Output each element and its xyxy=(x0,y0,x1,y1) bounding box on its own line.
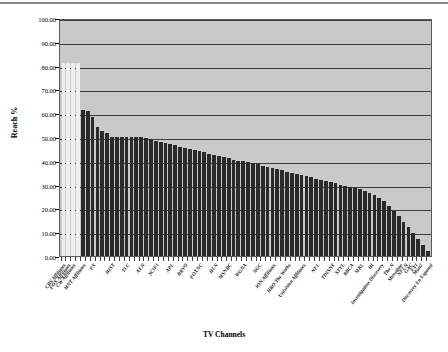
x-axis-tick-mark xyxy=(363,257,367,261)
bar xyxy=(251,163,255,256)
bar xyxy=(426,251,430,256)
top-divider-rule xyxy=(0,2,448,4)
bar xyxy=(353,188,357,256)
bar xyxy=(382,201,386,256)
x-axis-tick-mark xyxy=(348,257,352,261)
bar xyxy=(71,63,75,256)
bar xyxy=(339,185,343,256)
x-axis-tick-mark xyxy=(392,257,396,261)
bar xyxy=(256,164,260,256)
bar xyxy=(193,150,197,256)
x-axis-tick-mark xyxy=(182,257,186,261)
x-axis-category-label: AEN xyxy=(134,262,145,274)
x-axis-tick-mark xyxy=(226,257,230,261)
x-axis-tick-mark xyxy=(260,257,264,261)
reach-by-tv-channel-chart: Reach % 100.0090.0080.0070.0060.0050.004… xyxy=(0,0,448,352)
bar xyxy=(120,137,124,256)
x-axis-tick-mark xyxy=(377,257,381,261)
bar xyxy=(66,63,70,256)
bar xyxy=(319,180,323,256)
x-axis-category-label: TLC xyxy=(120,262,131,273)
x-axis-tick-mark xyxy=(109,257,113,261)
bar xyxy=(62,63,66,256)
bar xyxy=(76,63,80,256)
bar xyxy=(110,137,114,256)
x-axis-category-label: SCIFI xyxy=(147,262,160,277)
bar xyxy=(343,186,347,256)
x-axis-tick-mark xyxy=(61,257,65,261)
x-axis-tick-mark xyxy=(119,257,123,261)
x-axis-category-label: MBL xyxy=(353,262,365,275)
x-axis-tick-mark xyxy=(143,257,147,261)
x-axis-category-label: HLN xyxy=(207,262,218,274)
bar xyxy=(86,111,90,256)
x-axis-category-label: FOXNC xyxy=(188,262,204,280)
bar xyxy=(285,172,289,256)
bar xyxy=(261,166,265,256)
x-axis-category-label: NGC xyxy=(251,262,262,274)
bar xyxy=(421,245,425,256)
bar xyxy=(236,161,240,256)
bar xyxy=(329,182,333,256)
x-axis-tick-mark xyxy=(246,257,250,261)
bar xyxy=(212,155,216,256)
x-axis-tick-mark xyxy=(187,257,191,261)
x-axis-tick-mark xyxy=(416,257,420,261)
bar xyxy=(154,141,158,256)
x-axis-category-label: HIST xyxy=(104,262,116,275)
x-axis-tick-mark xyxy=(148,257,152,261)
bar xyxy=(358,189,362,256)
bar xyxy=(149,139,153,256)
y-axis-tick-label: 40.00 xyxy=(0,158,56,165)
x-axis-tick-mark xyxy=(90,257,94,261)
bar xyxy=(125,137,129,256)
x-axis-tick-mark xyxy=(168,257,172,261)
x-axis-tick-mark xyxy=(100,257,104,261)
bar xyxy=(81,110,85,256)
bar xyxy=(202,152,206,256)
x-axis-tick-mark xyxy=(178,257,182,261)
x-axis-tick-mark xyxy=(387,257,391,261)
bar xyxy=(266,167,270,256)
y-axis-tick-label: 80.00 xyxy=(0,63,56,70)
y-axis-tick-label: 100.00 xyxy=(0,16,56,23)
x-axis-tick-mark xyxy=(373,257,377,261)
x-axis-tick-mark xyxy=(324,257,328,261)
x-axis-tick-mark xyxy=(295,257,299,261)
bar xyxy=(168,144,172,256)
x-axis-tick-mark xyxy=(173,257,177,261)
y-axis-tick-label: 10.00 xyxy=(0,230,56,237)
bar xyxy=(295,174,299,256)
bar xyxy=(280,170,284,256)
y-axis-tick-label: 90.00 xyxy=(0,39,56,46)
bar xyxy=(188,149,192,256)
bar xyxy=(246,162,250,256)
x-axis-tick-mark xyxy=(75,257,79,261)
x-axis-category-label: Univision Affiliates xyxy=(276,262,306,298)
x-axis-tick-mark xyxy=(221,257,225,261)
x-axis-tick-mark xyxy=(309,257,313,261)
bar xyxy=(159,142,163,256)
bar xyxy=(407,227,411,256)
bar xyxy=(207,154,211,256)
x-axis-tick-mark xyxy=(353,257,357,261)
bar xyxy=(173,145,177,256)
y-axis-tick-label: 20.00 xyxy=(0,206,56,213)
bar xyxy=(198,151,202,256)
x-axis-tick-mark xyxy=(70,257,74,261)
bar xyxy=(115,137,119,256)
bar xyxy=(305,176,309,256)
bar xyxy=(373,195,377,256)
bar xyxy=(96,127,100,256)
x-axis-tick-mark xyxy=(251,257,255,261)
y-axis-tick-label: 50.00 xyxy=(0,135,56,142)
x-axis-tick-mark xyxy=(270,257,274,261)
bar xyxy=(290,173,294,256)
bar xyxy=(368,193,372,256)
bar xyxy=(183,148,187,256)
x-axis-tick-mark xyxy=(129,257,133,261)
x-axis-category-label: WGNA xyxy=(233,262,247,278)
bar xyxy=(139,137,143,256)
x-axis-tick-mark xyxy=(412,257,416,261)
bar xyxy=(217,156,221,256)
